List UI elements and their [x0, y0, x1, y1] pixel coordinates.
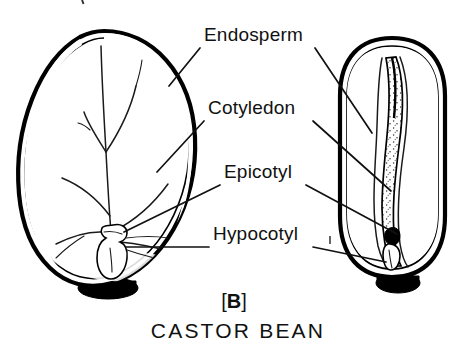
caption-title: CASTOR BEAN — [151, 319, 325, 342]
caption-bracket-right: ] — [241, 290, 247, 312]
castor-bean-diagram: Endosperm Cotyledon Epicotyl Hypocotyl [… — [0, 0, 468, 348]
cropped-artifact-above — [82, 0, 84, 4]
caption-letter: B — [227, 290, 241, 312]
hypocotyl-knot-right — [385, 227, 400, 245]
caption-panel-letter: [B] — [221, 290, 247, 312]
seed-face-view — [18, 31, 195, 299]
seed-side-view — [340, 38, 445, 293]
label-endosperm: Endosperm — [204, 24, 303, 45]
figure-panel: Endosperm Cotyledon Epicotyl Hypocotyl [… — [0, 0, 468, 348]
label-cotyledon: Cotyledon — [208, 97, 295, 118]
figure-caption: [B] CASTOR BEAN — [151, 290, 325, 342]
label-group: Endosperm Cotyledon Epicotyl Hypocotyl — [204, 24, 303, 244]
label-epicotyl: Epicotyl — [224, 161, 292, 182]
label-hypocotyl: Hypocotyl — [213, 223, 298, 244]
